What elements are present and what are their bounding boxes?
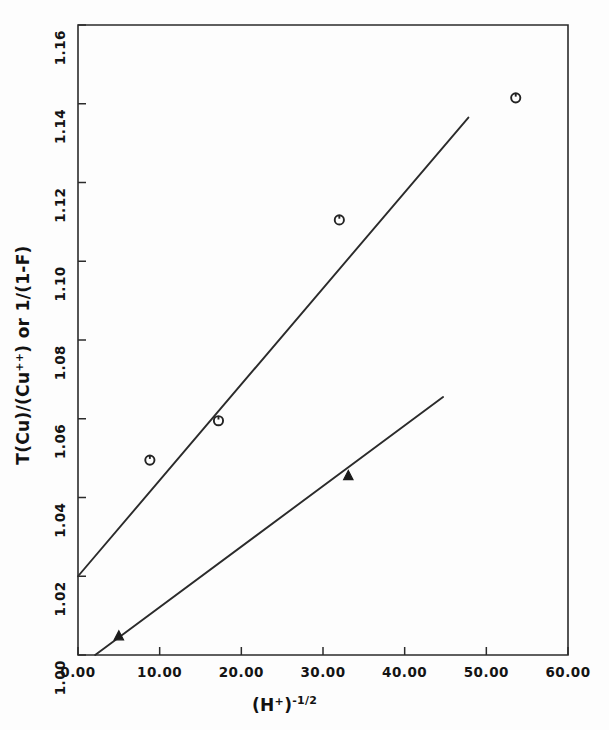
data-point-open-circle <box>145 455 154 464</box>
x-tick-label: 0.00 <box>60 664 95 680</box>
x-tick-label: 20.00 <box>219 664 264 680</box>
svg-text:(H+)-1/2: (H+)-1/2 <box>252 694 317 715</box>
y-axis-title-pre: T(Cu)/(Cu <box>13 372 33 465</box>
data-point-open-circle <box>214 416 223 425</box>
x-tick-label: 10.00 <box>137 664 182 680</box>
scatter-plot: 1.001.021.041.061.081.101.121.141.16 0.0… <box>0 0 609 730</box>
x-tick-label: 60.00 <box>545 664 590 680</box>
y-axis-title-sup: ++ <box>13 353 26 372</box>
svg-text:T(Cu)/(Cu++) or 1/(1-F): T(Cu)/(Cu++) or 1/(1-F) <box>13 245 33 464</box>
y-tick-label: 1.08 <box>52 345 68 380</box>
series-markers <box>114 93 520 640</box>
y-tick-label: 1.02 <box>52 581 68 616</box>
x-axis-title-exponent: -1/2 <box>292 694 317 707</box>
figure-canvas: 1.001.021.041.061.081.101.121.141.16 0.0… <box>0 0 609 730</box>
x-axis-ticks <box>78 647 568 655</box>
y-tick-label: 1.06 <box>52 424 68 459</box>
y-tick-label: 1.10 <box>52 266 68 301</box>
y-axis-title: T(Cu)/(Cu++) or 1/(1-F) <box>13 245 33 464</box>
data-point-open-circle <box>511 93 520 102</box>
trend-line-open-circles <box>78 118 468 577</box>
y-tick-label: 1.16 <box>52 30 68 65</box>
y-tick-label: 1.12 <box>52 188 68 223</box>
x-tick-label: 30.00 <box>300 664 345 680</box>
series-lines <box>78 118 468 655</box>
plot-frame <box>78 25 568 655</box>
y-axis-title-post: ) or 1/(1-F) <box>13 245 33 352</box>
data-point-open-circle <box>335 215 344 224</box>
x-axis-title-close: ) <box>284 695 292 715</box>
x-tick-label: 50.00 <box>464 664 509 680</box>
y-axis-tick-labels: 1.001.021.041.061.081.101.121.141.16 <box>52 30 68 695</box>
y-tick-label: 1.04 <box>52 503 68 538</box>
x-axis-tick-labels: 0.0010.0020.0030.0040.0050.0060.00 <box>60 664 590 680</box>
x-axis-title: (H+)-1/2 <box>252 694 317 715</box>
trend-line-filled-triangles <box>95 397 443 655</box>
x-axis-title-sup: + <box>275 695 285 708</box>
y-axis-ticks <box>78 25 86 655</box>
x-axis-title-base: (H <box>252 695 275 715</box>
x-tick-label: 40.00 <box>382 664 427 680</box>
y-tick-label: 1.14 <box>52 109 68 144</box>
data-point-filled-triangle <box>344 471 353 480</box>
